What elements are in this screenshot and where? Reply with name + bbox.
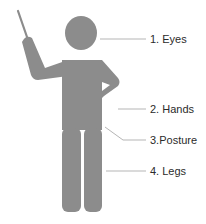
label-hands: 2. Hands: [150, 103, 194, 115]
pointer-stick: [18, 11, 27, 37]
head: [65, 16, 97, 50]
torso: [62, 60, 120, 130]
label-posture: 3.Posture: [150, 134, 197, 146]
label-eyes: 1. Eyes: [150, 33, 187, 45]
right-leg: [84, 128, 102, 212]
label-legs: 4. Legs: [150, 165, 186, 177]
raised-arm: [22, 37, 68, 80]
posture-leader: [105, 127, 146, 140]
left-leg: [62, 128, 81, 212]
